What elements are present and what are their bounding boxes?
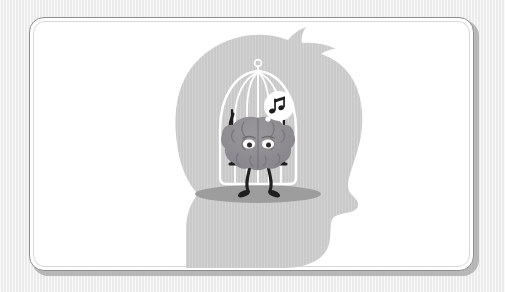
illustration-stage: A grey silhouette of a human head in pro… bbox=[30, 18, 473, 270]
eye-right-pupil bbox=[266, 143, 271, 148]
eye-left-pupil bbox=[247, 143, 252, 148]
music-bubble-tail-dot bbox=[265, 116, 270, 121]
illustration-frame: A grey silhouette of a human head in pro… bbox=[29, 17, 474, 271]
cage-floor-shadow bbox=[195, 185, 321, 203]
illustration-canvas: A grey silhouette of a human head in pro… bbox=[0, 0, 505, 292]
brain-in-cage-illustration: A grey silhouette of a human head in pro… bbox=[30, 18, 474, 271]
